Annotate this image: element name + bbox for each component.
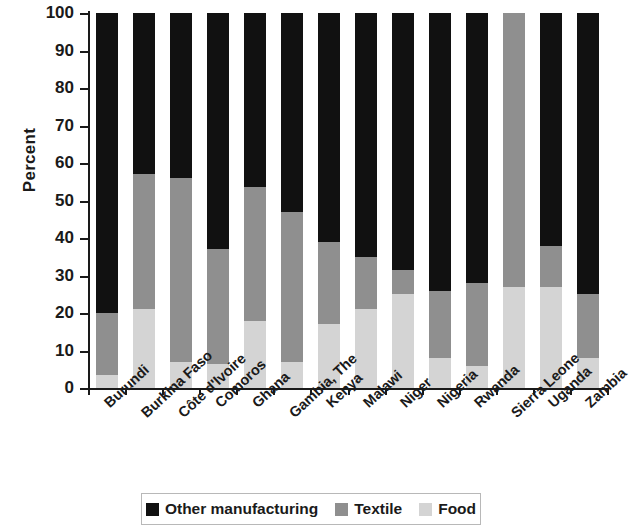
bar-segment-textile bbox=[318, 242, 340, 325]
bar-segment-other-manufacturing bbox=[170, 13, 192, 178]
chart-legend: Other manufacturingTextileFood bbox=[141, 493, 481, 525]
bar-segment-textile bbox=[244, 187, 266, 320]
y-axis-tick-label: 70 bbox=[14, 115, 74, 137]
plot-area bbox=[88, 13, 607, 388]
y-axis-tick-label: 50 bbox=[14, 190, 74, 212]
bar-gambia-the bbox=[281, 13, 303, 388]
bar-c-te-d-ivoire bbox=[170, 13, 192, 388]
y-axis-tick-label: 10 bbox=[14, 340, 74, 362]
bar-burundi bbox=[96, 13, 118, 388]
bar-segment-textile bbox=[281, 212, 303, 362]
bar-segment-other-manufacturing bbox=[392, 13, 414, 270]
bar-zambia bbox=[577, 13, 599, 388]
bar-malawi bbox=[355, 13, 377, 388]
bar-segment-other-manufacturing bbox=[540, 13, 562, 246]
y-axis-tick-label: 40 bbox=[14, 227, 74, 249]
bar-sierra-leone bbox=[503, 13, 525, 388]
bar-segment-textile bbox=[577, 294, 599, 358]
y-axis-tick-mark bbox=[80, 51, 88, 53]
legend-swatch-icon bbox=[335, 503, 348, 516]
y-axis-tick-mark bbox=[80, 238, 88, 240]
y-axis-tick-mark bbox=[80, 163, 88, 165]
y-axis-tick-label: 30 bbox=[14, 265, 74, 287]
bar-segment-other-manufacturing bbox=[466, 13, 488, 283]
bar-segment-textile bbox=[355, 257, 377, 310]
legend-item: Other manufacturing bbox=[146, 500, 318, 518]
legend-label: Food bbox=[438, 500, 476, 518]
y-axis-tick-mark bbox=[80, 276, 88, 278]
bar-segment-other-manufacturing bbox=[207, 13, 229, 249]
bar-segment-other-manufacturing bbox=[429, 13, 451, 291]
y-axis-tick-label: 80 bbox=[14, 77, 74, 99]
x-axis-tick-mark bbox=[88, 388, 90, 395]
bar-segment-other-manufacturing bbox=[577, 13, 599, 294]
bar-segment-textile bbox=[466, 283, 488, 366]
legend-item: Textile bbox=[335, 500, 402, 518]
y-axis-tick-label: 90 bbox=[14, 40, 74, 62]
bar-segment-textile bbox=[170, 178, 192, 362]
y-axis-tick-mark bbox=[80, 201, 88, 203]
legend-swatch-icon bbox=[146, 503, 159, 516]
bar-segment-other-manufacturing bbox=[281, 13, 303, 212]
legend-swatch-icon bbox=[419, 503, 432, 516]
bar-segment-other-manufacturing bbox=[244, 13, 266, 187]
y-axis-tick-mark bbox=[80, 88, 88, 90]
legend-item: Food bbox=[419, 500, 476, 518]
bar-segment-other-manufacturing bbox=[96, 13, 118, 313]
bar-kenya bbox=[318, 13, 340, 388]
y-axis-tick-mark bbox=[80, 388, 88, 390]
y-axis-tick-mark bbox=[80, 126, 88, 128]
bar-nigeria bbox=[429, 13, 451, 388]
y-axis-tick-label: 20 bbox=[14, 302, 74, 324]
bar-segment-textile bbox=[429, 291, 451, 359]
y-axis-tick-label: 100 bbox=[14, 2, 74, 24]
y-axis-tick-mark bbox=[80, 351, 88, 353]
y-axis-tick-label: 0 bbox=[14, 377, 74, 399]
bar-segment-other-manufacturing bbox=[355, 13, 377, 257]
bar-uganda bbox=[540, 13, 562, 388]
y-axis-tick-mark bbox=[80, 313, 88, 315]
legend-label: Other manufacturing bbox=[165, 500, 318, 518]
bar-segment-textile bbox=[392, 270, 414, 294]
bar-segment-other-manufacturing bbox=[318, 13, 340, 242]
y-axis-tick-label: 60 bbox=[14, 152, 74, 174]
bar-burkina-faso bbox=[133, 13, 155, 388]
bar-segment-textile bbox=[133, 174, 155, 309]
bar-segment-textile bbox=[540, 246, 562, 287]
bar-segment-other-manufacturing bbox=[133, 13, 155, 174]
bar-ghana bbox=[244, 13, 266, 388]
bar-segment-textile bbox=[207, 249, 229, 363]
legend-label: Textile bbox=[354, 500, 402, 518]
bar-segment-textile bbox=[96, 313, 118, 375]
bar-niger bbox=[392, 13, 414, 388]
y-axis-tick-mark bbox=[80, 13, 88, 15]
bar-segment-textile bbox=[503, 13, 525, 287]
bar-comoros bbox=[207, 13, 229, 388]
bar-rwanda bbox=[466, 13, 488, 388]
